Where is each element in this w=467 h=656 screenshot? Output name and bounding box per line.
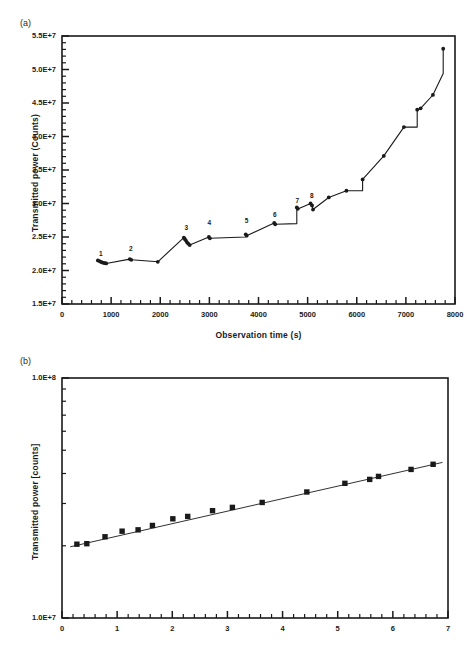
panel-b-y-tick-label: 1.0E+8 <box>8 373 56 382</box>
panel-b-x-tick-label: 2 <box>152 624 192 633</box>
panel-a-point-label: 4 <box>201 219 217 226</box>
panel-a-y-tick-label: 1.5E+7 <box>8 299 56 308</box>
panel-a-y-tick-label: 3.0E+7 <box>8 199 56 208</box>
panel-b-plot <box>0 340 467 656</box>
panel-a-y-tick-label: 2.5E+7 <box>8 232 56 241</box>
panel-a-point-label: 5 <box>238 217 254 224</box>
panel-a-y-tick-label: 5.0E+7 <box>8 65 56 74</box>
chart-panel-a: (a) Transmitted power (Counts) Observati… <box>0 0 467 340</box>
panel-a-y-tick-label: 4.5E+7 <box>8 98 56 107</box>
panel-a-x-tick-label: 0 <box>38 310 86 319</box>
panel-a-y-tick-label: 4.0E+7 <box>8 132 56 141</box>
panel-a-y-tick-label: 5.5E+7 <box>8 31 56 40</box>
chart-panel-b: (b) Transmitted power [counts] 1.0E+71.0… <box>0 340 467 656</box>
panel-b-x-tick-label: 7 <box>428 624 467 633</box>
panel-b-x-tick-label: 1 <box>97 624 137 633</box>
panel-b-x-tick-label: 3 <box>207 624 247 633</box>
panel-a-point-label: 1 <box>93 250 109 257</box>
panel-a-point-label: 6 <box>267 211 283 218</box>
panel-a-x-tick-label: 2000 <box>136 310 184 319</box>
panel-a-x-tick-label: 3000 <box>185 310 233 319</box>
panel-a-x-tick-label: 5000 <box>284 310 332 319</box>
panel-b-x-tick-label: 5 <box>318 624 358 633</box>
figure-container: (a) Transmitted power (Counts) Observati… <box>0 0 467 656</box>
panel-b-y-tick-label: 1.0E+7 <box>8 613 56 622</box>
panel-a-point-label: 8 <box>304 192 320 199</box>
panel-a-x-tick-label: 1000 <box>87 310 135 319</box>
panel-b-x-tick-label: 6 <box>373 624 413 633</box>
panel-a-x-tick-label: 8000 <box>431 310 467 319</box>
panel-a-point-label: 2 <box>123 245 139 252</box>
panel-a-x-tick-label: 4000 <box>235 310 283 319</box>
panel-a-point-label: 3 <box>178 224 194 231</box>
panel-a-plot <box>0 0 467 340</box>
panel-b-x-tick-label: 0 <box>42 624 82 633</box>
panel-a-y-tick-label: 3.5E+7 <box>8 165 56 174</box>
panel-a-x-tick-label: 7000 <box>382 310 430 319</box>
panel-b-x-tick-label: 4 <box>263 624 303 633</box>
panel-a-y-tick-label: 2.0E+7 <box>8 266 56 275</box>
panel-a-x-tick-label: 6000 <box>333 310 381 319</box>
